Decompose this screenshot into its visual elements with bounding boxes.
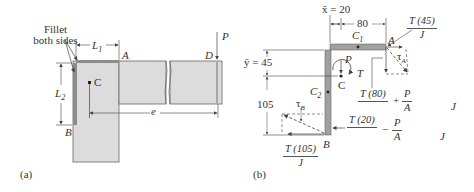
expr-horizB-P: P: [392, 117, 402, 131]
fillet-note: Fillet both sides: [33, 24, 78, 46]
label-P-b: P: [345, 54, 352, 65]
C1-sub: 1: [359, 35, 363, 44]
label-C2: C2: [310, 86, 321, 100]
tauB-sub: B: [300, 104, 304, 112]
fillet-line-2: both sides: [33, 34, 77, 46]
expr-vertA-num: T (80): [358, 88, 388, 102]
label-L1: L1: [92, 40, 102, 54]
label-A-b: A: [388, 35, 395, 46]
expr-vertA-frac2: P A: [402, 88, 412, 113]
label-C1: C1: [352, 30, 363, 44]
C2-sub: 2: [317, 91, 321, 100]
expr-TB-num: T (105): [283, 143, 318, 157]
label-P-a: P: [222, 31, 229, 42]
expr-TB: T (105) J: [283, 143, 318, 168]
panel-label-b: (b): [253, 169, 266, 180]
expr-horizB-den-blank: [347, 128, 377, 140]
label-T: T: [357, 68, 363, 79]
label-B-b: B: [323, 139, 330, 150]
centroid-point: [88, 81, 91, 84]
expr-TA-num: T (45): [407, 15, 437, 29]
expr-vertA-J: J: [451, 101, 456, 112]
diagram-a: [56, 32, 222, 162]
label-tauB: τB: [296, 98, 305, 112]
label-C-a: C: [94, 77, 101, 88]
side-weld: [73, 63, 77, 125]
dim-80: 80: [357, 18, 368, 29]
x-bar-label: x̄ = 20: [322, 4, 350, 15]
expr-vertA-P: P: [402, 88, 412, 102]
expr-horizB-frac1: T (20): [347, 114, 377, 139]
horizontal-bar-left: [119, 61, 166, 104]
expr-horizB-op: −: [382, 124, 388, 135]
expr-TB-den: J: [283, 157, 318, 169]
label-e: e: [151, 106, 156, 117]
expr-vertA-A: A: [402, 102, 412, 114]
y-bar-label: ȳ = 45: [244, 57, 272, 68]
expr-horizB-A: A: [392, 131, 402, 143]
horizontal-bar-right: [170, 61, 222, 104]
label-B-a: B: [65, 127, 72, 138]
label-A-a: A: [122, 50, 129, 61]
L2-sub: 2: [61, 93, 65, 102]
expr-vertA-op: +: [393, 95, 399, 106]
expr-TA: T (45) J: [407, 15, 437, 40]
label-tauA: τA: [397, 51, 406, 65]
expr-vertA-frac1: T (80): [358, 88, 388, 113]
label-D-a: D: [205, 50, 213, 61]
expr-horizB-num: T (20): [347, 114, 377, 128]
label-L2: L2: [55, 88, 65, 102]
expr-TA-den: J: [407, 29, 437, 41]
dim-105: 105: [257, 99, 274, 110]
expr-horizB-J: J: [440, 131, 445, 142]
tauA-sub: A: [401, 57, 405, 65]
panel-label-a: (a): [20, 169, 32, 180]
expr-horizB-frac2: P A: [392, 117, 402, 142]
expr-vertA-den-blank: [358, 102, 388, 114]
L1-sub: 1: [98, 45, 102, 54]
diagram-b: [263, 15, 412, 135]
top-weld: [76, 60, 119, 63]
label-C-b: C: [338, 80, 345, 91]
